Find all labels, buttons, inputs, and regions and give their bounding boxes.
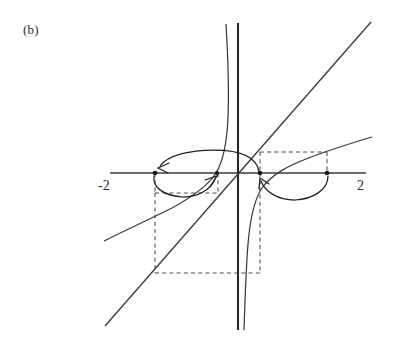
map-branch-left-curve <box>104 24 228 241</box>
point-x1-inner <box>215 171 219 175</box>
point-x2-right <box>258 171 263 176</box>
arrow-far-right-to-right-path <box>261 176 328 200</box>
plot-canvas <box>0 0 393 339</box>
arrow-outer-right-to-left-head <box>158 163 169 173</box>
figure-root: (b) -2 2 <box>0 0 393 339</box>
point-x0-left <box>153 171 158 176</box>
map-branch-right-curve <box>244 137 372 330</box>
arrow-outer-right-to-left-path <box>160 150 259 172</box>
point-x3-far <box>325 171 330 176</box>
arrow-left-to-inner-head <box>205 176 217 187</box>
